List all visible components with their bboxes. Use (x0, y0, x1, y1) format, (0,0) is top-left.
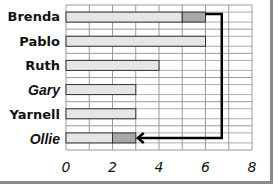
row-label-pablo: Pablo (19, 35, 60, 49)
row-label-ruth: Ruth (25, 59, 60, 73)
x-tick-0: 0 (56, 159, 76, 175)
row-label-yarnell: Yarnell (10, 108, 60, 122)
transfer-arrow-icon (138, 14, 222, 143)
grid (66, 5, 252, 150)
x-tick-8: 8 (242, 159, 262, 175)
x-tick-4: 4 (149, 159, 169, 175)
row-label-brenda: Brenda (8, 10, 60, 24)
x-tick-6: 6 (196, 159, 216, 175)
row-label-ollie: Ollie (30, 132, 60, 146)
row-label-gary: Gary (28, 83, 60, 97)
x-tick-2: 2 (103, 159, 123, 175)
